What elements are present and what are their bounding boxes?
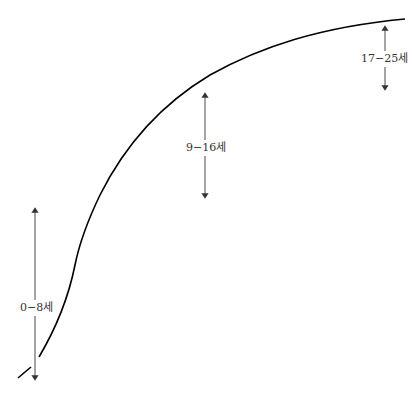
growth-diagram <box>0 0 417 398</box>
stage-label-17-25: 17−25세 <box>361 51 408 67</box>
stage-label-9-16: 9−16세 <box>186 140 226 156</box>
stage-label-0-8: 0−8세 <box>20 300 53 316</box>
growth-curve-main <box>39 19 405 357</box>
growth-curve <box>18 367 31 378</box>
